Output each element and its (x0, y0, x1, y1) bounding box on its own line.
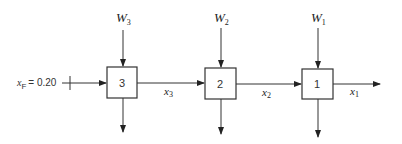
process-diagram: xF= 0.20 W3 3 x3 W2 2 x2 W1 1 x1 (0, 0, 402, 144)
stage-1-label: 1 (314, 78, 320, 90)
x1-label: x1 (349, 85, 359, 99)
w1-label: W1 (311, 10, 326, 27)
x2-label: x2 (261, 86, 271, 100)
feed-label: xF= 0.20 (16, 77, 57, 91)
stage-2: W2 2 x2 (205, 10, 301, 134)
stage-1: W1 1 x1 (302, 10, 380, 137)
stage-3: W3 3 x3 (107, 10, 204, 132)
stage-3-label: 3 (119, 77, 125, 89)
stage-2-label: 2 (217, 78, 223, 90)
w2-label: W2 (214, 10, 229, 27)
w3-label: W3 (116, 10, 131, 27)
x3-label: x3 (163, 85, 173, 99)
